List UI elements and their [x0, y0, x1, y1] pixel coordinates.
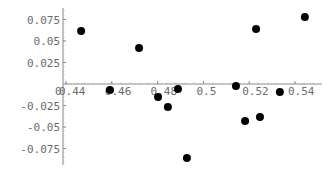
data-point [301, 13, 309, 21]
x-tick-label: 0.5 [196, 85, 216, 98]
data-point [106, 86, 114, 94]
data-point [256, 113, 264, 121]
data-point [174, 85, 182, 93]
y-tick-label: -0.05 [27, 121, 60, 134]
data-point [164, 103, 172, 111]
data-point [77, 27, 85, 35]
y-tick-label: -0.025 [20, 100, 60, 113]
data-points [77, 13, 309, 162]
y-tick-label: 0.025 [27, 57, 60, 70]
x-tick-label: 0.54 [288, 85, 315, 98]
x-tick-label: 0.52 [242, 85, 269, 98]
scatter-plot: 0.440.460.480.50.520.5400.0750.050.025-0… [0, 0, 334, 172]
data-point [276, 88, 284, 96]
data-point [232, 82, 240, 90]
data-point [135, 44, 143, 52]
y-tick-label: 0.05 [34, 35, 61, 48]
origin-label: 0 [55, 85, 62, 98]
data-point [154, 93, 162, 101]
y-tick-label: -0.075 [20, 143, 60, 156]
data-point [183, 154, 191, 162]
axes: 0.440.460.480.50.520.5400.0750.050.025-0… [20, 8, 322, 165]
data-point [252, 25, 260, 33]
x-tick-label: 0.44 [59, 85, 86, 98]
data-point [241, 117, 249, 125]
y-tick-label: 0.075 [27, 14, 60, 27]
